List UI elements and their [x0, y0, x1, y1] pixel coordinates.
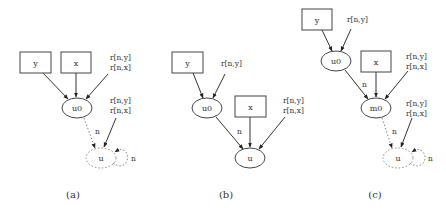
node-x: x [235, 96, 266, 117]
edge-ann-to-m0 [385, 71, 408, 99]
annotation-r-n-y: r[n,y] [110, 96, 131, 105]
node-u-label: u [98, 154, 103, 163]
node-u0: u0 [192, 98, 222, 118]
node-u0: u0 [321, 51, 351, 71]
edge-y-to-u0 [193, 73, 203, 98]
node-y-label: y [184, 59, 190, 68]
node-x-label: x [74, 59, 79, 68]
edge-ann-to-u0 [213, 74, 225, 98]
annotation-r-n-y: r[n,y] [221, 59, 242, 68]
edge-u-self-loop [410, 149, 425, 165]
edge-label-n-loop: n [428, 154, 433, 163]
edge-label-n-loop: n [131, 154, 136, 163]
node-u: u [383, 148, 413, 168]
node-y: y [172, 52, 203, 73]
node-u-label: u [247, 154, 252, 163]
edge-label-n: n [95, 127, 100, 136]
annotation-r-n-y: r[n,y] [406, 99, 427, 108]
node-u: u [86, 148, 116, 168]
node-y: y [20, 52, 51, 73]
node-u0: u0 [62, 98, 92, 118]
annotation-r-n-x: r[n,x] [110, 106, 131, 115]
node-m0-label: m0 [370, 104, 383, 113]
node-u-label: u [395, 154, 400, 163]
edge-label-n: n [237, 127, 242, 136]
edge-u-self-loop [113, 149, 128, 165]
figure-canvas: y x u0 u r[n,y] r[n,x] r[n,y] r[n,x] n n… [0, 0, 446, 213]
edge-u0-to-u-dotted [84, 118, 95, 148]
edge-label-n: n [362, 80, 367, 89]
node-u: u [235, 148, 265, 168]
node-y: y [302, 9, 332, 30]
annotation-r-n-y: r[n,y] [283, 96, 304, 105]
caption-b: (b) [219, 189, 233, 200]
panel-c: y u0 x m0 u r[n,y] r[n,y] r[n,x] r[n,y] … [302, 9, 433, 200]
edge-ann-to-u [259, 117, 285, 149]
annotation-r-n-y: r[n,y] [110, 53, 131, 62]
annotation-r-n-x: r[n,x] [406, 109, 427, 118]
edge-ann-to-u0 [341, 29, 351, 51]
node-x-label: x [374, 58, 379, 67]
edge-y-to-u0 [322, 30, 332, 51]
node-u0-label: u0 [72, 104, 82, 113]
caption-a: (a) [66, 189, 80, 200]
edge-ann-to-u [104, 118, 116, 147]
edge-ann-to-u [401, 118, 412, 147]
edge-label-n: n [392, 127, 397, 136]
node-u0-label: u0 [202, 104, 212, 113]
node-y-label: y [32, 59, 38, 68]
node-x-label: x [248, 103, 253, 112]
annotation-r-n-x: r[n,x] [283, 106, 304, 115]
node-x: x [361, 51, 391, 72]
annotation-r-n-y: r[n,y] [347, 15, 368, 24]
node-m0: m0 [361, 98, 391, 118]
edge-ann-to-u0 [86, 74, 108, 99]
node-y-label: y [314, 16, 320, 25]
annotation-r-n-x: r[n,x] [110, 63, 131, 72]
annotation-r-n-y: r[n,y] [406, 52, 427, 61]
panel-a: y x u0 u r[n,y] r[n,x] r[n,y] r[n,x] n n… [20, 52, 136, 200]
edge-y-to-u0 [43, 73, 68, 99]
annotation-r-n-x: r[n,x] [406, 62, 427, 71]
edge-m0-to-u-dotted [382, 118, 392, 148]
node-u0-label: u0 [331, 57, 341, 66]
node-x: x [61, 52, 91, 73]
panel-b: y u0 x u r[n,y] r[n,y] r[n,x] n (b) [172, 52, 304, 200]
caption-c: (c) [368, 189, 382, 200]
